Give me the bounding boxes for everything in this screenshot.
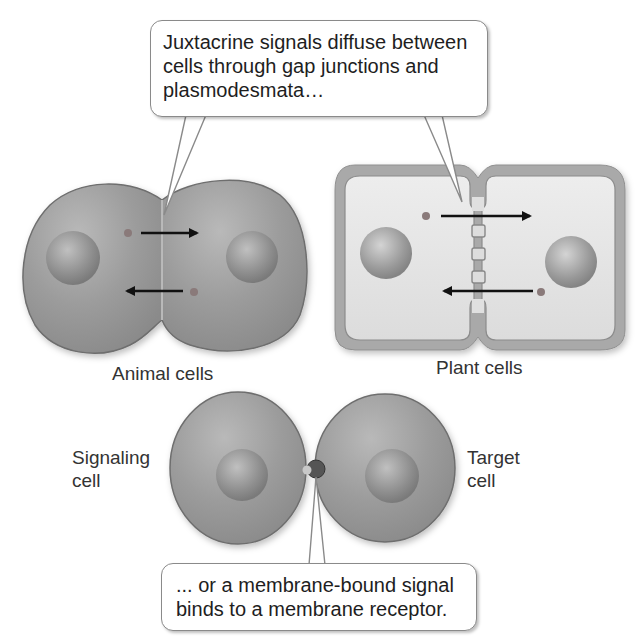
target-cell-label-line-1: Target: [467, 446, 520, 469]
signaling-cell-label-line-2: cell: [72, 469, 150, 492]
plasmodesma-icon: [472, 197, 484, 211]
top-callout-line-2: cells through gap junctions and: [163, 54, 475, 78]
signal-molecule-icon: [190, 288, 198, 296]
target-cell-label: Target cell: [467, 446, 520, 492]
animal-nucleus-right: [226, 231, 278, 283]
plasmodesma-channel-icon: [472, 271, 485, 283]
plasmodesma-channel-icon: [472, 248, 485, 260]
signal-molecule-icon: [124, 229, 132, 237]
signaling-nucleus: [216, 449, 268, 501]
signaling-cell-label: Signaling cell: [72, 446, 150, 492]
plant-nucleus-left: [360, 227, 412, 279]
signal-molecule-icon: [422, 212, 430, 220]
animal-cells-label: Animal cells: [112, 362, 213, 385]
bottom-callout-line-2: binds to a membrane receptor.: [176, 597, 464, 621]
membrane-signal-icon: [303, 466, 312, 475]
top-callout: Juxtacrine signals diffuse between cells…: [150, 20, 488, 117]
signal-molecule-icon: [537, 288, 545, 296]
target-cell-label-line-2: cell: [467, 469, 520, 492]
bottom-callout: ... or a membrane-bound signal binds to …: [161, 563, 477, 631]
plasmodesma-icon: [472, 299, 484, 313]
animal-nucleus-left: [46, 231, 100, 285]
signaling-cell-label-line-1: Signaling: [72, 446, 150, 469]
top-callout-line-3: plasmodesmata…: [163, 78, 475, 102]
plant-cells-label: Plant cells: [436, 356, 523, 379]
bottom-callout-line-1: ... or a membrane-bound signal: [176, 573, 464, 597]
plant-nucleus-right: [545, 236, 597, 288]
target-nucleus: [365, 449, 419, 503]
plasmodesma-channel-icon: [472, 225, 485, 237]
top-callout-line-1: Juxtacrine signals diffuse between: [163, 30, 475, 54]
